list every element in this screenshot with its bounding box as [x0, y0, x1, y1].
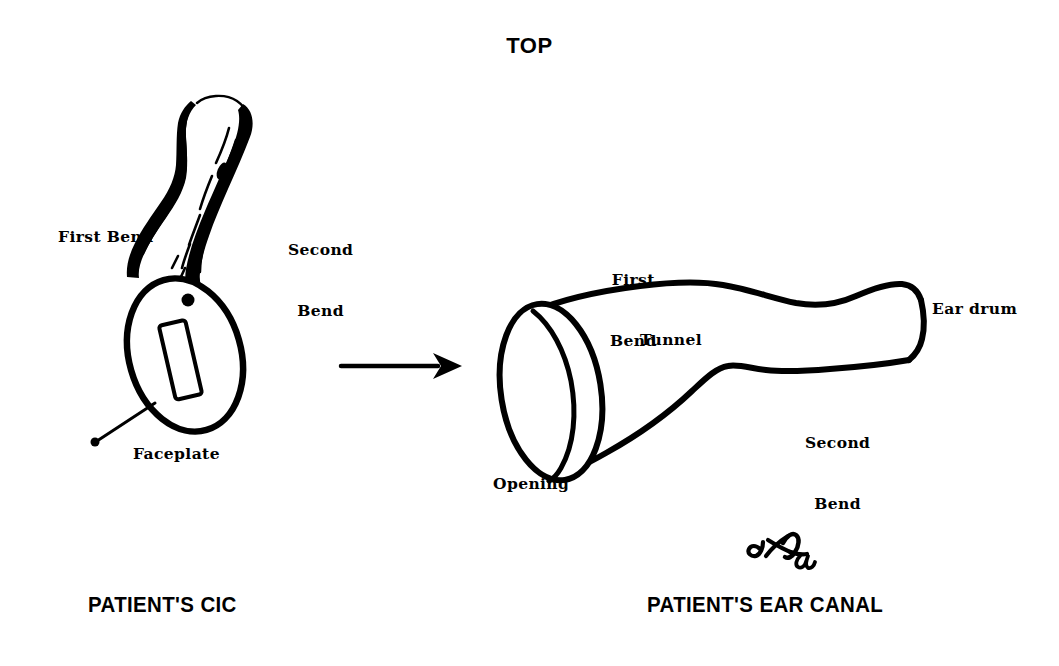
cic-faceplate-leader-line — [97, 403, 155, 441]
label-cic-second-bend: Second Bend — [288, 200, 353, 361]
cic-drawing — [91, 96, 261, 447]
figure-artwork — [0, 0, 1059, 666]
label-canal-first-bend: First Bend — [610, 230, 657, 391]
label-canal-second-bend: Second Bend — [805, 393, 870, 554]
label-canal-tunnel: Tunnel — [640, 331, 702, 349]
caption-patients-ear-canal: PATIENT'S EAR CANAL — [647, 592, 883, 618]
label-canal-first-bend-line1: First — [610, 270, 657, 290]
label-canal-ear-drum: Ear drum — [932, 300, 1017, 318]
caption-patients-cic: PATIENT'S CIC — [88, 592, 237, 618]
label-cic-first-bend: First Bend — [58, 228, 153, 246]
transformation-arrow — [341, 353, 462, 379]
label-cic-faceplate: Faceplate — [133, 445, 220, 463]
label-canal-second-bend-line2: Bend — [805, 494, 870, 514]
canal-ear-drum-end — [909, 300, 924, 360]
label-cic-second-bend-line2: Bend — [288, 301, 353, 321]
label-canal-opening: Opening — [493, 475, 569, 493]
cic-faceplate-leader-dot — [91, 438, 100, 447]
label-cic-second-bend-line1: Second — [288, 240, 353, 260]
page-title-top: TOP — [0, 33, 1059, 59]
label-canal-second-bend-line1: Second — [805, 433, 870, 453]
canal-top-wall — [532, 282, 921, 312]
cic-microphone-port-dot — [182, 294, 195, 307]
diagram-page: TOP First Bend Second Bend Faceplate Fir… — [0, 0, 1059, 666]
